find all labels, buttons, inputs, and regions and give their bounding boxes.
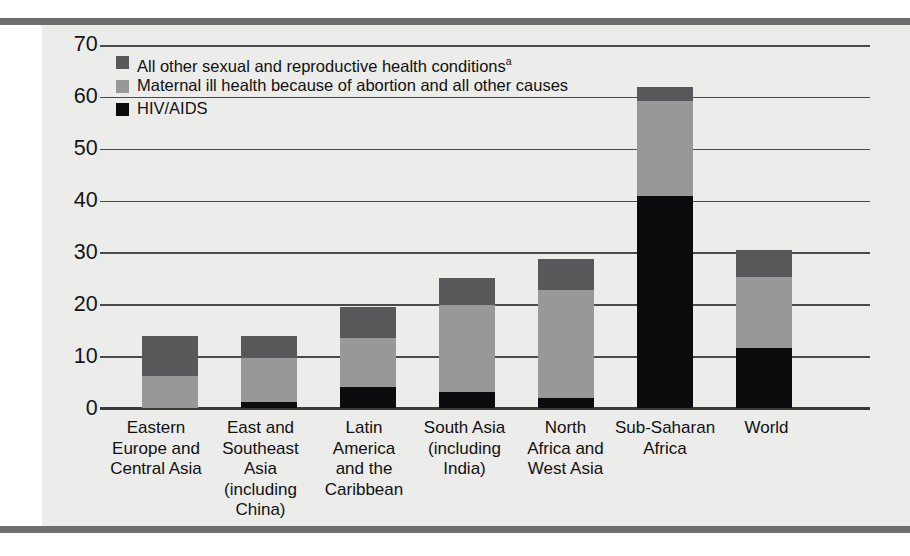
y-tick-label-0: 0 xyxy=(40,398,98,420)
chart-legend: All other sexual and reproductive health… xyxy=(116,52,568,123)
legend-item-maternal[interactable]: Maternal ill health because of abortion … xyxy=(116,76,568,96)
bar-latin-america-caribbean[interactable] xyxy=(340,307,396,408)
top-rule xyxy=(0,18,910,25)
series-top-swatch-icon xyxy=(116,56,129,69)
bar-segment-other-srh xyxy=(241,336,297,358)
y-tick-label-40: 40 xyxy=(40,190,98,212)
bar-sub-saharan-africa[interactable] xyxy=(637,87,693,409)
series-mid-swatch-icon xyxy=(116,80,129,93)
bar-segment-maternal xyxy=(538,290,594,398)
x-axis-labels: Eastern Europe and Central Asia East and… xyxy=(100,418,870,533)
y-tick-label-50: 50 xyxy=(40,138,98,160)
x-label-world: World xyxy=(704,418,829,439)
bar-segment-maternal xyxy=(637,101,693,196)
bar-world[interactable] xyxy=(736,250,792,408)
bar-south-asia[interactable] xyxy=(439,278,495,408)
gridline-40 xyxy=(100,201,870,203)
bar-segment-other-srh xyxy=(340,307,396,338)
y-tick-label-10: 10 xyxy=(40,346,98,368)
bar-east-southeast-asia[interactable] xyxy=(241,336,297,408)
legend-footnote-marker: a xyxy=(506,55,512,67)
gridline-50 xyxy=(100,149,870,151)
gridline-70 xyxy=(100,45,870,47)
y-tick-label-70: 70 xyxy=(40,34,98,56)
series-bottom-swatch-icon xyxy=(116,103,129,116)
bar-segment-maternal xyxy=(142,376,198,408)
bar-segment-other-srh xyxy=(142,336,198,376)
figure-container: 70 60 50 40 30 20 10 0 xyxy=(0,0,910,556)
bar-segment-maternal xyxy=(340,338,396,387)
bar-segment-maternal xyxy=(241,358,297,402)
legend-item-hiv-aids[interactable]: HIV/AIDS xyxy=(116,99,568,119)
bar-north-africa-west-asia[interactable] xyxy=(538,259,594,408)
y-tick-label-60: 60 xyxy=(40,86,98,108)
legend-label-hiv-aids: HIV/AIDS xyxy=(137,99,208,118)
bar-segment-other-srh xyxy=(538,259,594,290)
bar-segment-hiv-aids xyxy=(736,348,792,408)
bar-segment-other-srh xyxy=(439,278,495,305)
bar-segment-maternal xyxy=(736,277,792,348)
bar-segment-maternal xyxy=(439,305,495,392)
bar-eastern-europe-central-asia[interactable] xyxy=(142,336,198,408)
bar-segment-hiv-aids xyxy=(340,387,396,408)
y-tick-label-20: 20 xyxy=(40,294,98,316)
left-margin-strip xyxy=(0,18,42,533)
legend-item-other-srh[interactable]: All other sexual and reproductive health… xyxy=(116,52,568,72)
legend-label-maternal: Maternal ill health because of abortion … xyxy=(137,76,568,95)
bar-segment-other-srh xyxy=(736,250,792,277)
bar-segment-other-srh xyxy=(637,87,693,102)
y-tick-label-30: 30 xyxy=(40,242,98,264)
bar-segment-hiv-aids xyxy=(241,402,297,408)
bar-segment-hiv-aids xyxy=(439,392,495,408)
bar-segment-hiv-aids xyxy=(637,196,693,408)
bar-segment-hiv-aids xyxy=(538,398,594,408)
legend-label-other-srh: All other sexual and reproductive health… xyxy=(137,52,512,76)
